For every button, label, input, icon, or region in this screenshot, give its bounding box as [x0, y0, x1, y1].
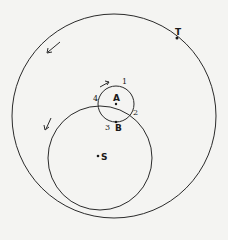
- label-3: 3: [105, 123, 110, 132]
- label-S: S: [101, 152, 107, 162]
- label-B: B: [115, 123, 122, 133]
- outer-direction-arrow-icon: [47, 42, 60, 53]
- orbit-diagram: T A B S 1 2 3 4: [0, 0, 228, 240]
- label-A: A: [113, 93, 120, 103]
- sun-orbit-direction-arrow-icon: [44, 118, 51, 130]
- small-orbit-direction-arrow-icon: [100, 81, 109, 87]
- label-T: T: [175, 27, 182, 37]
- label-1: 1: [122, 77, 127, 86]
- sun-orbit-circle: [48, 106, 152, 210]
- outer-orbit-circle: [12, 14, 216, 218]
- point-A: [115, 103, 117, 105]
- point-S: [97, 155, 100, 158]
- label-4: 4: [93, 94, 98, 103]
- label-2: 2: [133, 108, 138, 117]
